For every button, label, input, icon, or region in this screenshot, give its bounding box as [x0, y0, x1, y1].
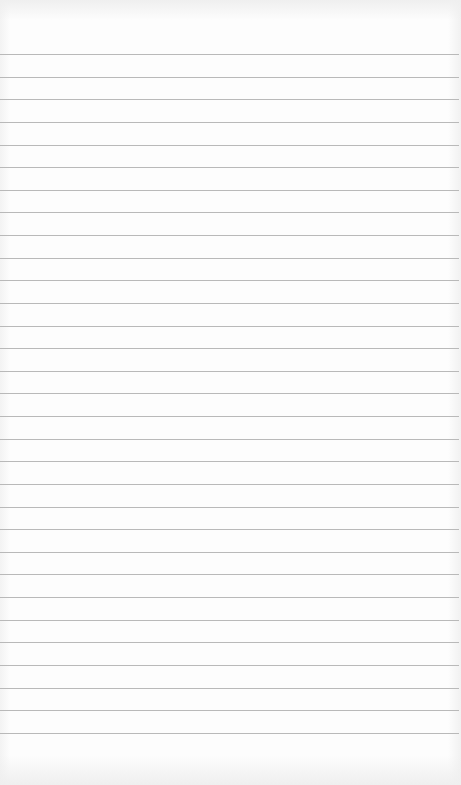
ruled-line: [0, 326, 459, 327]
ruled-line: [0, 371, 459, 372]
ruled-line: [0, 167, 459, 168]
ruled-line: [0, 574, 459, 575]
ruled-line: [0, 507, 459, 508]
ruled-line: [0, 212, 459, 213]
ruled-line: [0, 552, 459, 553]
ruled-line: [0, 733, 459, 734]
ruled-line: [0, 620, 459, 621]
ruled-line: [0, 348, 459, 349]
ruled-line: [0, 484, 459, 485]
ruled-line: [0, 235, 459, 236]
ruled-line: [0, 529, 459, 530]
ruled-line: [0, 461, 459, 462]
ruled-line: [0, 190, 459, 191]
ruled-line: [0, 77, 459, 78]
ruled-line: [0, 439, 459, 440]
ruled-line: [0, 54, 459, 55]
ruled-line: [0, 280, 459, 281]
ruled-line: [0, 99, 459, 100]
ruled-line: [0, 688, 459, 689]
ruled-line: [0, 145, 459, 146]
ruled-line: [0, 303, 459, 304]
ruled-line: [0, 258, 459, 259]
lined-paper-sheet: [0, 0, 461, 785]
ruled-line: [0, 642, 459, 643]
ruled-line: [0, 665, 459, 666]
ruled-line: [0, 710, 459, 711]
ruled-line: [0, 597, 459, 598]
ruled-line: [0, 416, 459, 417]
ruled-line: [0, 393, 459, 394]
ruled-line: [0, 122, 459, 123]
